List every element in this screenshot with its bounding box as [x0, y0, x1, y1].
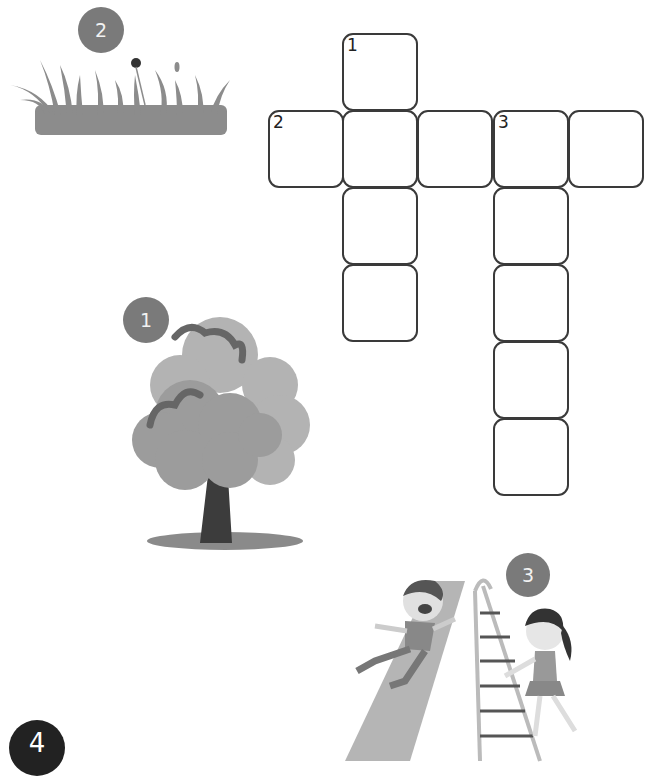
crossword-cell-1-across-start[interactable]: 1	[342, 33, 418, 111]
clue-badge-2: 2	[78, 7, 124, 53]
clue-number: 4	[29, 728, 46, 758]
crossword-cell[interactable]: 2	[268, 110, 344, 188]
clue-number: 2	[95, 19, 107, 41]
crossword-cell[interactable]	[493, 264, 569, 342]
cell-number: 1	[347, 37, 358, 54]
crossword-cell[interactable]: 3	[493, 110, 569, 188]
crossword-cell[interactable]	[342, 264, 418, 342]
crossword-cell[interactable]	[417, 110, 493, 188]
crossword-cell[interactable]	[342, 110, 418, 188]
crossword-cell[interactable]	[493, 341, 569, 419]
crossword-cell[interactable]	[342, 187, 418, 265]
clue-badge-4: 4	[9, 720, 65, 776]
grass-icon	[5, 55, 235, 145]
crossword-cell[interactable]	[493, 418, 569, 496]
tree-icon	[130, 315, 310, 555]
crossword-cell[interactable]	[493, 187, 569, 265]
slide-icon	[335, 571, 595, 761]
crossword-cell[interactable]	[568, 110, 644, 188]
cell-number: 2	[273, 114, 284, 131]
cell-number: 3	[498, 114, 509, 131]
